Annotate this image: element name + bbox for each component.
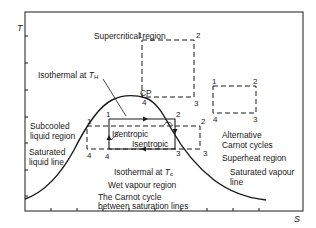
- top-cycle-point-1: 1: [138, 31, 142, 40]
- top-cycle-point-2: 2: [196, 31, 200, 40]
- right-dashed-cycle: [213, 86, 256, 113]
- wide-cycle-point-4: 4: [87, 151, 91, 160]
- wide-cycle-point-2: 2: [201, 117, 205, 126]
- main-cycle-point-3: 3: [176, 149, 180, 158]
- wide-cycle-point-1: 1: [87, 117, 91, 126]
- saturated-liquid-label-line2: liquid line: [29, 157, 64, 167]
- top-cycle-point-4: 4: [142, 98, 146, 107]
- right-cycle-point-2: 2: [253, 77, 257, 86]
- main-cycle-point-1: 1: [106, 110, 110, 119]
- arrow-right-icon: [143, 117, 148, 122]
- saturated-vapour-label-line2: line: [230, 177, 243, 187]
- isentropic-right-label: Isentropic: [132, 139, 168, 149]
- right-cycle-point-1: 1: [212, 77, 216, 86]
- isothermal-th-label: Isothermal at TH: [38, 70, 98, 82]
- isentropic-left-label: Isentropic: [112, 129, 148, 139]
- carnot-cycle-label-line2: between saturation lines: [98, 201, 188, 211]
- arrow-up-icon: [107, 135, 112, 140]
- top-cycle-point-3: 3: [194, 99, 198, 108]
- wide-cycle-point-3: 3: [203, 149, 207, 158]
- superheat-region-label: Superheat region: [222, 153, 286, 163]
- alternative-carnot-label-line2: Carnot cycles: [222, 140, 273, 150]
- main-cycle-point-2: 2: [176, 110, 180, 119]
- wet-vapour-region-label: Wet vapour region: [108, 180, 176, 190]
- alternative-carnot-label-line1: Alternative: [222, 130, 262, 140]
- y-axis-label: T: [17, 23, 23, 33]
- subcooled-label-line2: liquid region: [30, 131, 75, 141]
- x-axis-label: S: [294, 214, 300, 224]
- subcooled-label-line1: Subcooled: [30, 121, 70, 131]
- main-cycle-point-4: 4: [105, 152, 109, 161]
- saturated-vapour-label-line1: Saturated vapour: [230, 167, 294, 177]
- supercritical-region-label: Supercritical region: [94, 31, 166, 41]
- right-cycle-point-4: 4: [213, 115, 217, 124]
- critical-point-label: CP: [140, 88, 152, 98]
- isothermal-tc-label: Isothermal at Tc: [114, 167, 173, 179]
- saturated-liquid-label-line1: Saturated: [29, 147, 65, 157]
- right-cycle-point-3: 3: [253, 115, 257, 124]
